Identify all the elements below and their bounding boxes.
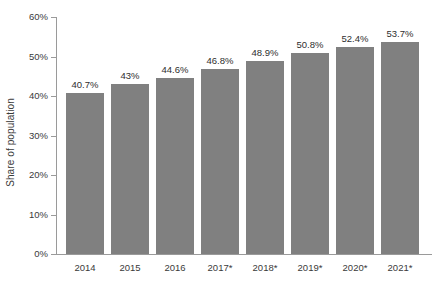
x-axis-tick-label: 2018* (240, 262, 290, 273)
y-axis-tick-label: 20% (0, 169, 48, 180)
y-axis-tick (51, 57, 56, 58)
x-axis-tick-label: 2020* (330, 262, 380, 273)
y-axis-tick-label-wrap: 20% (0, 169, 48, 181)
y-axis-tick-label-wrap: 0% (0, 248, 48, 260)
y-axis-tick-label-wrap: 10% (0, 209, 48, 221)
y-axis-tick (51, 215, 56, 216)
y-axis-line (56, 17, 57, 255)
y-axis-tick-label-wrap: 50% (0, 51, 48, 63)
bar-value-label: 50.8% (285, 39, 335, 50)
y-axis-tick-label: 40% (0, 90, 48, 101)
bar (336, 47, 374, 254)
bar (66, 93, 104, 254)
bar-value-label: 43% (105, 70, 155, 81)
y-axis-tick (51, 17, 56, 18)
y-axis-tick-label-wrap: 60% (0, 11, 48, 23)
bar-value-label: 52.4% (330, 33, 380, 44)
y-axis-title: Share of population (0, 0, 20, 285)
x-axis-tick-label: 2014 (60, 262, 110, 273)
y-axis-tick (51, 175, 56, 176)
y-axis-tick (51, 136, 56, 137)
bar-value-label: 53.7% (375, 28, 425, 39)
x-axis-line (56, 254, 432, 255)
y-axis-tick-label: 10% (0, 209, 48, 220)
y-axis-tick-label: 50% (0, 51, 48, 62)
bar (201, 69, 239, 254)
bar (111, 84, 149, 254)
y-axis-tick (51, 254, 56, 255)
bar-value-label: 46.8% (195, 55, 245, 66)
y-axis-tick (51, 96, 56, 97)
bar (246, 61, 284, 254)
y-axis-tick-label-wrap: 30% (0, 130, 48, 142)
y-axis-tick-label-wrap: 40% (0, 90, 48, 102)
x-axis-tick-label: 2015 (105, 262, 155, 273)
x-axis-tick-label: 2017* (195, 262, 245, 273)
x-axis-tick-label: 2021* (375, 262, 425, 273)
bar-value-label: 48.9% (240, 47, 290, 58)
bar (381, 42, 419, 254)
x-axis-tick-label: 2019* (285, 262, 335, 273)
bar (291, 53, 329, 254)
x-axis-tick-label: 2016 (150, 262, 200, 273)
bar-chart: Share of population 0%10%20%30%40%50%60%… (0, 0, 437, 285)
bar-value-label: 40.7% (60, 79, 110, 90)
bar-value-label: 44.6% (150, 64, 200, 75)
y-axis-tick-label: 60% (0, 11, 48, 22)
y-axis-tick-label: 0% (0, 248, 48, 259)
y-axis-tick-label: 30% (0, 130, 48, 141)
bar (156, 78, 194, 254)
